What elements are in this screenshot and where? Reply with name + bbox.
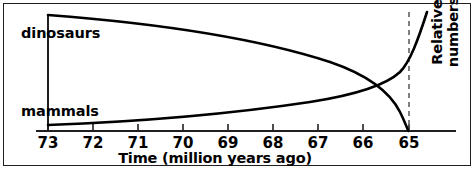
series-label-dinosaurs: dinosaurs	[21, 25, 100, 41]
x-axis-ticks	[48, 124, 409, 131]
x-axis-title: Time (million years ago)	[0, 150, 430, 166]
series-label-mammals: mammals	[21, 103, 99, 119]
mammals-curve	[48, 12, 427, 125]
chart-figure: dinosaurs mammals 73 72 71 70 69 68 67 6…	[0, 0, 475, 173]
y-axis-title: Relative numbers	[429, 0, 461, 91]
